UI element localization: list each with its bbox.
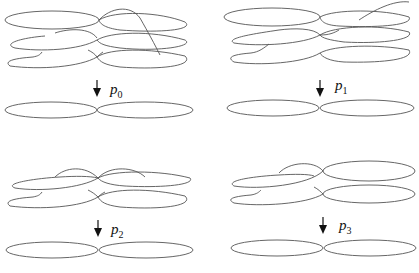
map-label-p1: p1: [335, 78, 348, 96]
panel-p1: p1: [219, 0, 419, 130]
map-label-p0: p0: [110, 82, 123, 100]
covering-space-p1: [219, 0, 419, 130]
covering-space-p2: [0, 140, 200, 270]
covering-space-p3: [219, 140, 419, 270]
covering-space-p0: [0, 0, 200, 130]
panel-p2: p2: [0, 140, 200, 270]
map-label-p3: p3: [339, 218, 352, 236]
panel-p3: p3: [219, 140, 419, 270]
map-label-p2: p2: [111, 222, 124, 240]
panel-p0: p0: [0, 0, 200, 130]
